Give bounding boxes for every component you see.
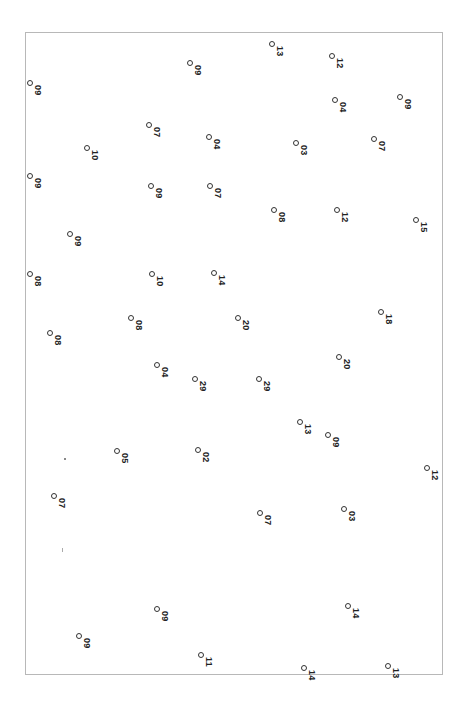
point-label: 29 — [262, 381, 271, 391]
point-label: 07 — [152, 127, 161, 137]
point-label: 09 — [403, 99, 412, 109]
point-label: 12 — [340, 212, 349, 222]
point-label: 11 — [204, 657, 213, 667]
point-label: 09 — [82, 638, 91, 648]
point-label: 08 — [53, 335, 62, 345]
point-label: 03 — [299, 145, 308, 155]
point-label: 02 — [201, 452, 210, 462]
point-label: 09 — [331, 437, 340, 447]
point-label: 09 — [33, 85, 42, 95]
plot-frame — [25, 32, 443, 675]
point-label: 04 — [212, 139, 221, 149]
point-label: 05 — [120, 453, 129, 463]
point-label: 08 — [134, 320, 143, 330]
point-label: 29 — [198, 381, 207, 391]
point-label: 09 — [33, 178, 42, 188]
point-label: 18 — [384, 314, 393, 324]
point-label: 09 — [154, 188, 163, 198]
point-label: 08 — [277, 212, 286, 222]
point-label: 12 — [335, 58, 344, 68]
point-label: 15 — [419, 222, 428, 232]
point-label: 04 — [160, 367, 169, 377]
point-label: 13 — [391, 668, 400, 678]
point-label: 14 — [307, 670, 316, 680]
point-label: 09 — [160, 611, 169, 621]
point-label: 14 — [351, 608, 360, 618]
point-label: 10 — [90, 150, 99, 160]
point-label: 10 — [155, 276, 164, 286]
point-label: 07 — [57, 498, 66, 508]
scan-speck — [62, 548, 63, 552]
point-label: 08 — [33, 276, 42, 286]
point-label: 13 — [275, 46, 284, 56]
point-label: 07 — [377, 141, 386, 151]
point-label: 12 — [430, 470, 439, 480]
scan-speck — [64, 458, 66, 460]
point-label: 07 — [213, 188, 222, 198]
point-label: 07 — [263, 515, 272, 525]
point-label: 13 — [303, 424, 312, 434]
point-label: 20 — [342, 359, 351, 369]
point-label: 09 — [193, 65, 202, 75]
point-label: 09 — [73, 236, 82, 246]
point-label: 14 — [217, 275, 226, 285]
point-label: 20 — [241, 320, 250, 330]
point-label: 04 — [338, 102, 347, 112]
point-label: 03 — [347, 511, 356, 521]
